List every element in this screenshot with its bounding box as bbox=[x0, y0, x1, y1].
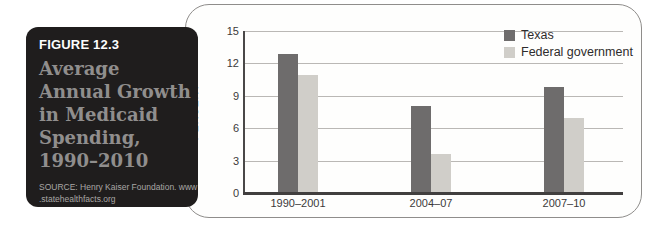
chart-card: PERCENT Texas Federal government 0369121… bbox=[185, 4, 642, 218]
y-tick-label-6: 6 bbox=[233, 122, 239, 134]
bar-texas-2004-07 bbox=[411, 106, 431, 193]
bar-federal-government-1990-2001 bbox=[298, 75, 318, 193]
figure-number-label: FIGURE 12.3 bbox=[39, 37, 185, 52]
y-tick-label-3: 3 bbox=[233, 155, 239, 167]
gridline-12 bbox=[244, 63, 623, 64]
x-tick-label-2004-07: 2004–07 bbox=[410, 197, 453, 209]
federal-swatch bbox=[504, 47, 515, 58]
figure-panel: FIGURE 12.3 Average Annual Growth in Med… bbox=[26, 27, 198, 207]
figure-source-line: SOURCE: Henry Kaiser Foundation. www bbox=[39, 181, 185, 193]
y-tick-label-12: 12 bbox=[227, 57, 239, 69]
bar-texas-1990-2001 bbox=[278, 54, 298, 193]
legend-label-texas: Texas bbox=[521, 28, 554, 42]
x-tick-label-2007-10: 2007–10 bbox=[543, 197, 586, 209]
legend: Texas Federal government bbox=[504, 28, 633, 62]
y-tick-label-9: 9 bbox=[233, 90, 239, 102]
bar-federal-government-2007-10 bbox=[564, 118, 584, 193]
figure-12-3: PERCENT Texas Federal government 0369121… bbox=[0, 0, 669, 227]
figure-title-line: Annual Growth bbox=[39, 80, 185, 103]
legend-row-texas: Texas bbox=[504, 28, 633, 42]
bar-texas-2007-10 bbox=[544, 87, 564, 193]
y-axis-line bbox=[243, 31, 245, 193]
y-tick-label-15: 15 bbox=[227, 25, 239, 37]
legend-label-federal: Federal government bbox=[521, 45, 633, 59]
figure-source-line: .statehealthfacts.org bbox=[39, 193, 185, 205]
y-tick-label-0: 0 bbox=[233, 187, 239, 199]
bar-federal-government-2004-07 bbox=[431, 154, 451, 193]
figure-source: SOURCE: Henry Kaiser Foundation. www .st… bbox=[39, 181, 185, 205]
texas-swatch bbox=[504, 30, 515, 41]
figure-title-line: 1990–2010 bbox=[39, 149, 185, 172]
legend-row-federal: Federal government bbox=[504, 45, 633, 59]
figure-title: Average Annual Growth in Medicaid Spendi… bbox=[39, 57, 185, 172]
plot-area: PERCENT Texas Federal government 0369121… bbox=[244, 31, 623, 193]
x-tick-label-1990-2001: 1990–2001 bbox=[270, 197, 325, 209]
figure-title-line: Average bbox=[39, 57, 185, 80]
x-axis-line bbox=[243, 192, 623, 195]
figure-title-line: in Medicaid bbox=[39, 103, 185, 126]
figure-title-line: Spending, bbox=[39, 126, 185, 149]
